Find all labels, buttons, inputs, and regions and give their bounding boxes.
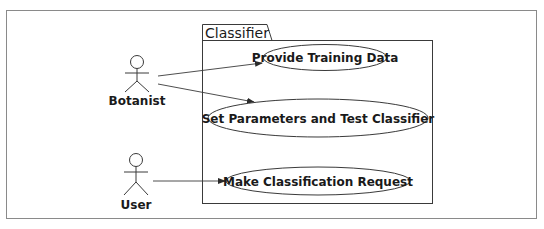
actor-label-botanist: Botanist [109, 94, 166, 108]
actor-label-user: User [121, 198, 152, 212]
use-case-label: Provide Training Data [252, 51, 399, 65]
package-label: Classifier [205, 25, 269, 41]
use-case-diagram: Classifier Botanist User Provide Trainin… [0, 0, 544, 229]
use-case-label: Make Classification Request [223, 175, 413, 189]
use-case-label: Set Parameters and Test Classifier [202, 112, 435, 126]
use-case-make-classification-request: Make Classification Request [223, 167, 413, 195]
